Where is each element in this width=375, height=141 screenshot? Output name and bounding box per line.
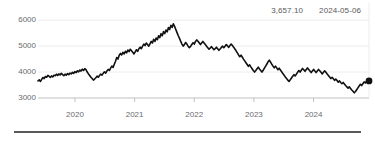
x-axis-label-2022: 2022 bbox=[174, 111, 214, 119]
y-axis-label-3000: 3000 bbox=[6, 94, 36, 102]
y-axis-label-5000: 5000 bbox=[6, 42, 36, 50]
chart-plot-area[interactable]: 3000400050006000 20202021202220232024 bbox=[0, 0, 375, 122]
x-tick-marks bbox=[75, 98, 314, 102]
y-axis-label-4000: 4000 bbox=[6, 68, 36, 76]
x-axis-label-2020: 2020 bbox=[55, 111, 95, 119]
x-axis-label-2024: 2024 bbox=[294, 111, 334, 119]
series-line-index bbox=[38, 24, 369, 93]
chart-widget: 3,657.10 2024-05-06 3000400050006000 202… bbox=[0, 0, 375, 141]
bottom-divider bbox=[14, 131, 361, 133]
gridlines bbox=[38, 20, 369, 98]
x-axis-label-2023: 2023 bbox=[234, 111, 274, 119]
x-axis-label-2021: 2021 bbox=[115, 111, 155, 119]
y-axis-label-6000: 6000 bbox=[6, 16, 36, 24]
line-chart-svg bbox=[0, 0, 375, 122]
last-point-marker bbox=[366, 78, 373, 85]
